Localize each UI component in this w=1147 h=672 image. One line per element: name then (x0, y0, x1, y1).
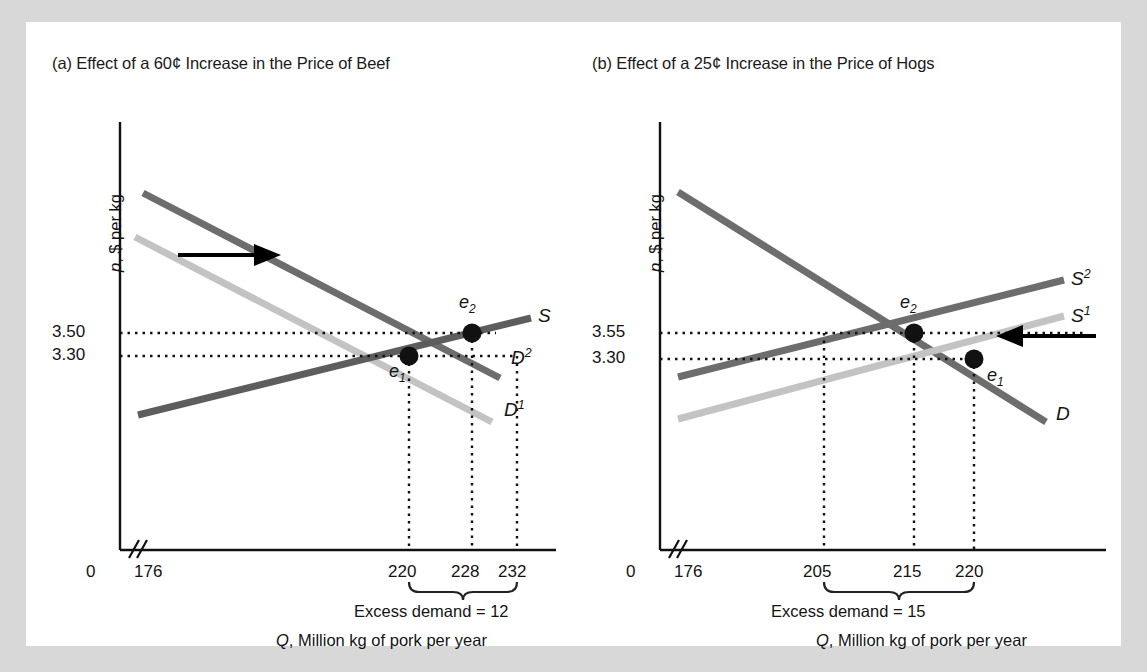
panel-a-xtick-1: 220 (388, 562, 416, 582)
panel-a-origin-label: 0 (86, 562, 95, 582)
panel-a-xtick-2: 228 (451, 562, 479, 582)
panel-a-break-label: 176 (134, 562, 162, 582)
eq-label-e1: e1 (987, 365, 1004, 386)
panel-b-xtick-1: 205 (803, 562, 831, 582)
panel-b-plot: p, $ per kg 3.55 3.30 0 176 205 215 220 … (566, 22, 1113, 646)
panel-b-xtick-3: 220 (955, 562, 983, 582)
curve-label-demand: D (1056, 403, 1070, 425)
panel-b-ytick-2: 3.30 (592, 348, 625, 368)
curve-label-supply-1: S1 (1071, 305, 1091, 327)
panel-b-excess-demand-label: Excess demand = 15 (771, 602, 926, 621)
figure-frame: (a) Effect of a 60¢ Increase in the Pric… (0, 0, 1147, 672)
equilibrium-point-e2 (463, 324, 482, 343)
curve-label-supply-2: S2 (1071, 268, 1091, 290)
panel-b-xtick-2: 215 (893, 562, 921, 582)
equilibrium-point-e1 (965, 350, 984, 369)
curve-label-supply: S (538, 305, 551, 327)
panel-b-svg (566, 22, 1113, 646)
excess-demand-brace (409, 582, 517, 600)
panel-a-excess-demand-label: Excess demand = 12 (354, 602, 509, 621)
curve-label-demand-1: D1 (504, 399, 525, 421)
panel-a-y-axis-label: p, $ per kg (106, 194, 125, 272)
curve-demand-1 (135, 237, 492, 422)
equilibrium-point-e2 (905, 324, 924, 343)
panel-b-x-axis-caption: Q, Million kg of pork per year (816, 631, 1027, 650)
curve-demand (678, 192, 1046, 422)
figure-content: (a) Effect of a 60¢ Increase in the Pric… (26, 22, 1121, 646)
panel-b-ytick-1: 3.55 (592, 322, 625, 342)
curve-demand-2 (143, 193, 500, 378)
panel-b-y-axis-label: p, $ per kg (646, 194, 665, 272)
demand-shift-arrow (178, 244, 281, 266)
panel-a-plot: p, $ per kg 3.50 3.30 0 176 220 228 232 … (26, 22, 573, 646)
panel-b: (b) Effect of a 25¢ Increase in the Pric… (566, 22, 1113, 646)
panel-b-break-label: 176 (674, 562, 702, 582)
eq-label-e1: e1 (389, 361, 406, 382)
panel-a-ytick-1: 3.50 (52, 322, 85, 342)
eq-label-e2: e2 (459, 292, 476, 313)
panel-a-xtick-3: 232 (498, 562, 526, 582)
panel-b-origin-label: 0 (626, 562, 635, 582)
panel-a-svg (26, 22, 573, 646)
eq-label-e2: e2 (900, 292, 917, 313)
panel-a-x-axis-caption: Q, Million kg of pork per year (276, 631, 487, 650)
panel-a-ytick-2: 3.30 (52, 345, 85, 365)
panel-a: (a) Effect of a 60¢ Increase in the Pric… (26, 22, 573, 646)
excess-demand-brace (824, 582, 974, 600)
curve-label-demand-2: D2 (511, 347, 532, 369)
